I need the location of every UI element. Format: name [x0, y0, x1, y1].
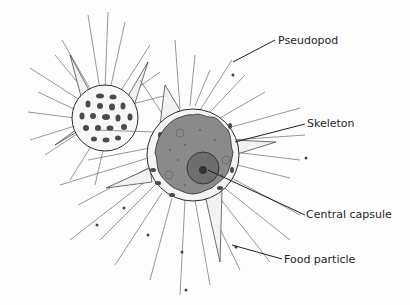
label-skeleton: Skeleton	[307, 118, 355, 130]
label-pseudopod: Pseudopod	[278, 35, 338, 47]
label-central-capsule: Central capsule	[306, 209, 392, 221]
large-radiolarian	[60, 40, 308, 295]
radiolarian-diagram: Pseudopod Skeleton Central capsule Food …	[0, 0, 410, 305]
label-food-particle: Food particle	[284, 254, 355, 266]
